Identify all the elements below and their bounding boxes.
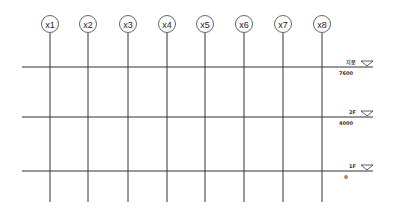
level-1: 2F4000 — [22, 109, 373, 126]
grid-axis-x4: x4 — [159, 16, 176, 203]
level-lines: 지붕76002F40001F0 — [22, 59, 373, 180]
level-elevation: 0 — [344, 174, 348, 180]
axis-label: x7 — [278, 20, 288, 30]
level-elevation: 4000 — [339, 120, 353, 126]
level-name: 2F — [349, 109, 356, 115]
grid-axes: x1x2x3x4x5x6x7x8 — [42, 16, 331, 203]
level-marker-triangle-icon — [361, 61, 373, 66]
grid-axis-x5: x5 — [197, 16, 214, 203]
grid-axis-x3: x3 — [120, 16, 137, 203]
axis-label: x8 — [317, 20, 327, 30]
axis-label: x3 — [123, 20, 133, 30]
axis-label: x2 — [83, 20, 93, 30]
grid-axis-x7: x7 — [275, 16, 292, 203]
level-0: 지붕7600 — [22, 59, 373, 76]
level-elevation: 7600 — [339, 70, 353, 76]
level-marker-triangle-icon — [361, 111, 373, 116]
axis-label: x1 — [45, 20, 55, 30]
axis-label: x4 — [162, 20, 172, 30]
axis-label: x6 — [239, 20, 249, 30]
grid-axis-x8: x8 — [314, 16, 331, 203]
axis-label: x5 — [200, 20, 210, 30]
grid-axis-x2: x2 — [80, 16, 97, 203]
level-name: 1F — [349, 163, 356, 169]
level-marker-triangle-icon — [361, 165, 373, 170]
grid-axis-x1: x1 — [42, 16, 59, 203]
level-2: 1F0 — [22, 163, 373, 180]
grid-elevation-diagram: 지붕76002F40001F0 x1x2x3x4x5x6x7x8 — [0, 0, 399, 212]
grid-axis-x6: x6 — [236, 16, 253, 203]
level-name: 지붕 — [346, 59, 356, 66]
